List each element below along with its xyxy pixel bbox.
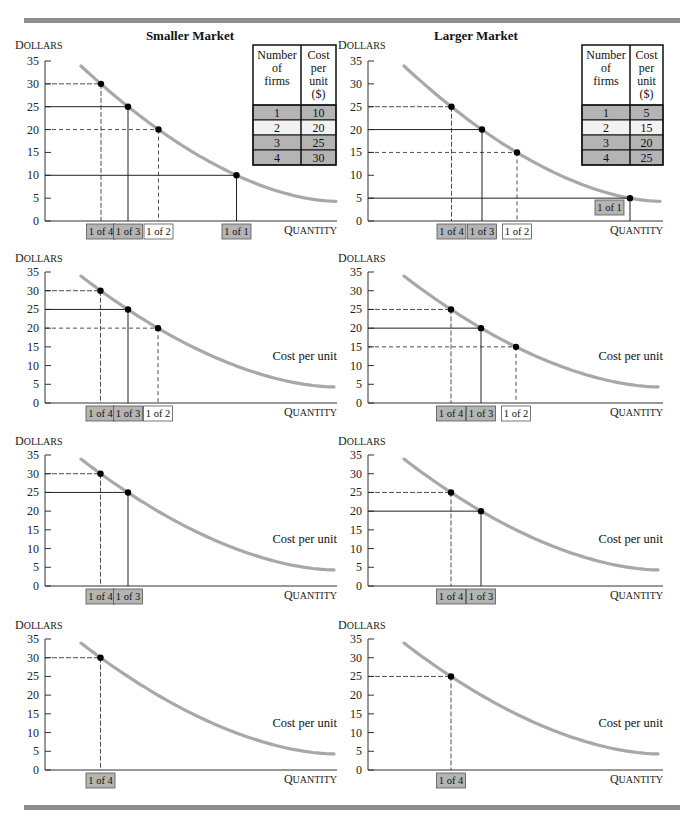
y-tick-label: 10: [27, 542, 39, 556]
firm-share-label: 1 of 2: [504, 408, 529, 419]
cost-per-unit-curve: [81, 459, 334, 570]
y-tick-label: 5: [356, 744, 362, 758]
y-tick-label: 10: [27, 726, 39, 740]
curve-label: Cost per unit: [272, 716, 337, 730]
y-tick-label: 35: [350, 632, 362, 646]
y-tick-label: 10: [350, 359, 362, 373]
chart-panel-row1-right: DOLLARS35302520151050QUANTITYCost per un…: [338, 28, 664, 239]
y-tick-label: 10: [350, 168, 362, 182]
cost-per-unit-curve: [404, 643, 658, 754]
data-point: [448, 104, 454, 110]
y-tick-label: 5: [356, 560, 362, 574]
table-header-cost: unit: [309, 74, 328, 88]
table-cell-firms: 4: [274, 151, 280, 165]
table-cell-firms: 2: [274, 121, 280, 135]
x-axis-title: QUANTITY: [284, 405, 337, 419]
y-tick-label: 5: [33, 191, 39, 205]
table-cell-cost: 15: [641, 121, 653, 135]
table-cell-firms: 2: [603, 121, 609, 135]
data-point: [448, 489, 454, 495]
y-tick-label: 20: [27, 321, 39, 335]
table-header-firms: Number: [586, 48, 625, 62]
y-tick-label: 30: [27, 467, 39, 481]
y-tick-label: 25: [350, 302, 362, 316]
firm-share-label: 1 of 3: [469, 591, 494, 602]
x-axis-title: QUANTITY: [284, 588, 337, 602]
y-tick-label: 30: [27, 651, 39, 665]
table-cell-firms: 3: [603, 136, 609, 150]
y-tick-label: 20: [27, 504, 39, 518]
y-tick-label: 0: [356, 579, 362, 593]
table-header-firms: firms: [264, 74, 290, 88]
table-header-cost: Cost: [635, 48, 658, 62]
y-tick-label: 15: [27, 145, 39, 159]
market-title: Smaller Market: [146, 28, 235, 43]
y-tick-label: 35: [350, 448, 362, 462]
table-cell-cost: 25: [641, 151, 653, 165]
firm-share-label: 1 of 1: [224, 226, 249, 237]
firm-share-label: 1 of 3: [470, 226, 495, 237]
y-tick-label: 0: [356, 396, 362, 410]
firms-cost-table: 110220325430NumberoffirmsCostperunit($): [253, 45, 336, 165]
y-tick-label: 0: [33, 579, 39, 593]
curve-label: Cost per unit: [272, 349, 337, 363]
data-point: [233, 172, 239, 178]
table-header-cost: per: [311, 61, 326, 75]
data-point: [627, 195, 633, 201]
y-tick-label: 25: [27, 100, 39, 114]
data-point: [448, 306, 454, 312]
table-cell-cost: 25: [313, 136, 325, 150]
cost-per-unit-curve: [81, 643, 334, 754]
y-tick-label: 10: [27, 168, 39, 182]
y-tick-label: 25: [350, 485, 362, 499]
firm-share-label: 1 of 2: [146, 408, 171, 419]
y-tick-label: 10: [350, 542, 362, 556]
y-tick-label: 10: [27, 359, 39, 373]
table-cell-firms: 4: [603, 151, 609, 165]
table-cell-firms: 3: [274, 136, 280, 150]
firm-share-label: 1 of 2: [505, 226, 530, 237]
y-tick-label: 25: [27, 302, 39, 316]
y-tick-label: 5: [356, 377, 362, 391]
data-point: [97, 471, 103, 477]
firms-cost-table: 15215320425NumberoffirmsCostperunit($): [582, 45, 663, 165]
table-cell-cost: 5: [644, 106, 650, 120]
table-header-cost: Cost: [307, 48, 330, 62]
curve-label: Cost per unit: [598, 349, 663, 363]
table-cell-firms: 1: [274, 106, 280, 120]
chart-panel-row4-right: DOLLARS35302520151050QUANTITYCost per un…: [338, 618, 664, 788]
data-point: [513, 344, 519, 350]
data-point: [125, 306, 131, 312]
y-axis-title: DOLLARS: [15, 434, 63, 448]
chart-panel-row3-left: DOLLARS35302520151050QUANTITYCost per un…: [15, 434, 338, 604]
y-tick-label: 30: [350, 284, 362, 298]
y-tick-label: 5: [33, 744, 39, 758]
firm-share-label: 1 of 4: [88, 775, 113, 786]
y-axis-title: DOLLARS: [15, 38, 63, 52]
table-header-cost: per: [639, 61, 654, 75]
table-cell-cost: 30: [313, 151, 325, 165]
y-tick-label: 0: [356, 214, 362, 228]
y-tick-label: 0: [33, 396, 39, 410]
data-point: [125, 104, 131, 110]
firm-share-label: 1 of 3: [116, 591, 141, 602]
y-tick-label: 20: [350, 688, 362, 702]
y-tick-label: 25: [350, 669, 362, 683]
firm-share-label: 1 of 4: [439, 775, 464, 786]
y-tick-label: 20: [27, 123, 39, 137]
x-axis-title: QUANTITY: [610, 588, 663, 602]
y-tick-label: 5: [356, 191, 362, 205]
data-point: [514, 149, 520, 155]
y-tick-label: 20: [350, 321, 362, 335]
firm-share-label: 1 of 4: [88, 408, 113, 419]
curve-label: Cost per unit: [598, 716, 663, 730]
y-tick-label: 0: [356, 763, 362, 777]
firm-share-label: 1 of 4: [88, 591, 113, 602]
table-header-firms: firms: [593, 74, 619, 88]
y-tick-label: 30: [350, 651, 362, 665]
chart-panel-row3-right: DOLLARS35302520151050QUANTITYCost per un…: [338, 434, 664, 604]
y-axis-title: DOLLARS: [15, 251, 63, 265]
cost-per-unit-curve: [404, 459, 658, 570]
y-tick-label: 35: [27, 265, 39, 279]
table-header-cost: unit: [637, 74, 656, 88]
